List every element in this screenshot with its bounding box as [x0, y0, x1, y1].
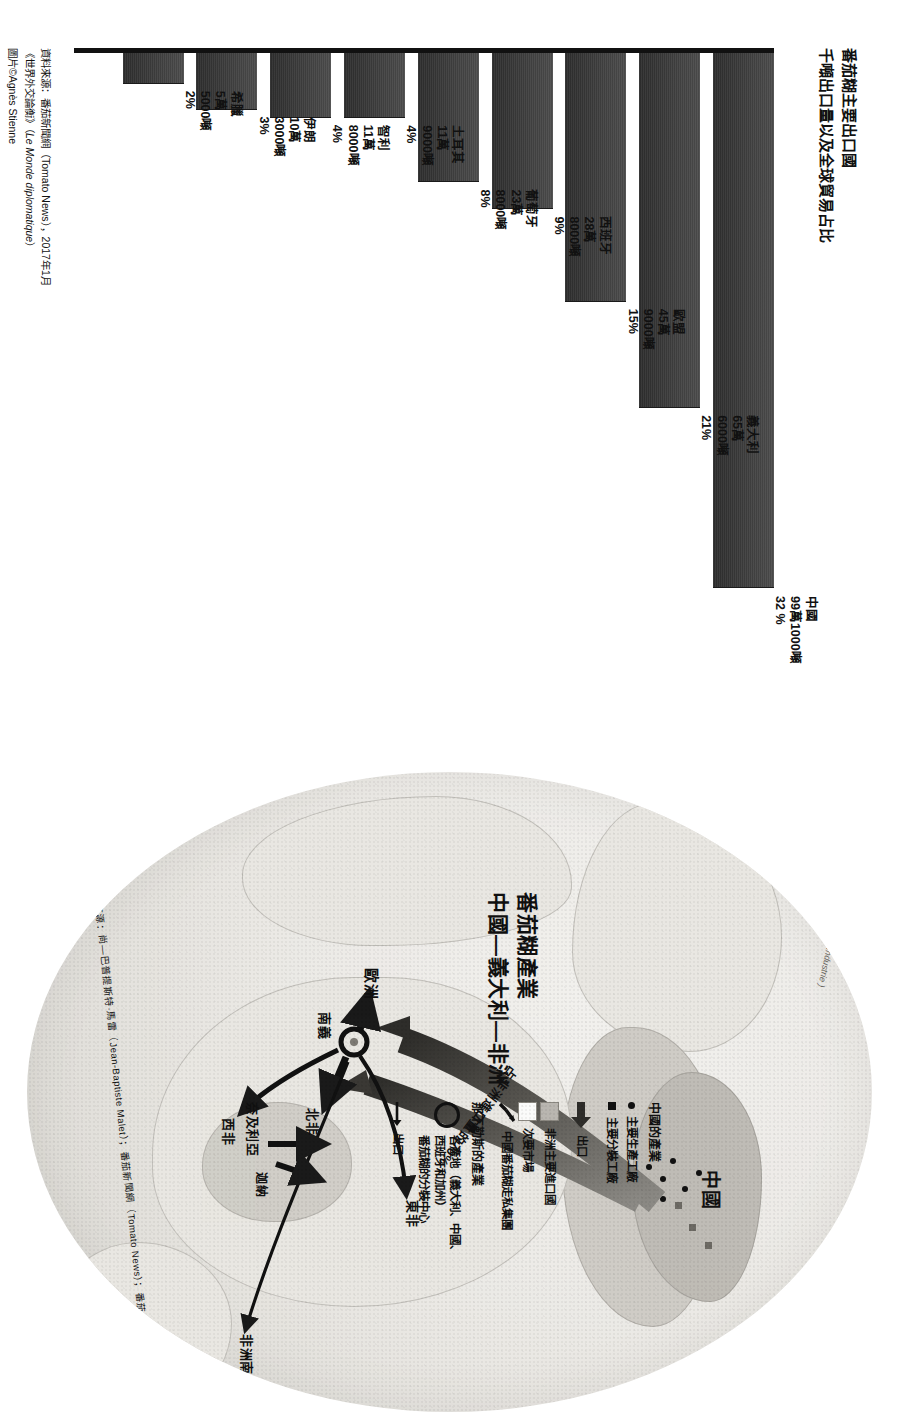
chart-title-line2: 千噸出口量以及全球貿易占比	[815, 48, 838, 243]
chart-bar	[123, 53, 184, 84]
chart-bar-label: 葡萄牙23萬8000噸8%	[477, 189, 538, 230]
origin-line1: 各產地（義大利、中國、	[449, 1135, 461, 1256]
chart-bar-label-line: 32 %	[772, 596, 787, 664]
chart-bar-label-line: 11萬	[434, 125, 449, 166]
label-ghana: 迦納	[253, 1172, 268, 1197]
chart-bar-label-line: 義大利	[744, 415, 759, 456]
chart-bar	[713, 53, 774, 588]
chart-bar-label-line: 8000噸	[566, 216, 581, 257]
chart-bar-label-line: 10萬	[286, 117, 301, 158]
chart-source: 資料來源：番茄新聞網（Tomato News），2017年1月 《世界外交論衡》…	[5, 48, 54, 286]
legend-label-export2: 出口	[389, 1133, 406, 1155]
chart-bar-label-line: 4%	[329, 125, 344, 166]
chart-bar-label-line: 28萬	[581, 216, 596, 257]
chart-bar	[270, 53, 331, 118]
chart-title-line1: 番茄糊主要出口國	[838, 48, 861, 243]
bar-chart-panel: 番茄糊主要出口國 千噸出口量以及全球貿易占比 中國99萬1000噸32 %義大利…	[0, 0, 900, 714]
map-title: 番茄糊產業 中國—義大利—非洲	[483, 892, 542, 1086]
label-north-africa: 北非	[304, 1108, 320, 1135]
chart-bar-label-line: 3000噸	[271, 117, 286, 158]
map-title-line2: 中國—義大利—非洲	[483, 892, 512, 1086]
map-legend: 中國的產業 主要生產工廠 主要分裝工廠 出口 非洲主要進口	[386, 1102, 662, 1256]
chart-bar-label: 西班牙28萬8000噸9%	[551, 216, 612, 257]
chart-bar-label: 中國99萬1000噸32 %	[772, 596, 818, 664]
chart-bar-label-line: 土耳其	[449, 125, 464, 166]
chart-bar-label-line: 希臘	[227, 91, 242, 132]
chart-bar-label: 土耳其11萬9000噸4%	[403, 125, 464, 166]
chart-bar-label-line: 8%	[477, 189, 492, 230]
chart-bar-label-line: 智利	[375, 125, 390, 166]
origin-line3: 番茄糊的分裝中心	[418, 1135, 430, 1223]
chart-bar-label: 義大利65萬6000噸21%	[698, 415, 759, 456]
legend-item-export: 出口	[571, 1102, 591, 1256]
circle-icon	[434, 1102, 460, 1128]
chart-bar-label-line: 8000噸	[492, 189, 507, 230]
legend-item-main-factory: 主要生產工廠	[623, 1102, 640, 1256]
chart-bar-label-line: 葡萄牙	[523, 189, 538, 230]
legend-label-smuggling: 中國番茄糊走私集團	[499, 1131, 516, 1230]
label-nigeria: 奈及利亞	[244, 1102, 260, 1156]
label-europe: 歐洲	[361, 968, 380, 999]
rotated-canvas: 番茄糊主要出口國 千噸出口量以及全球貿易占比 中國99萬1000噸32 %義大利…	[0, 0, 900, 1428]
legend-item-origin-hub: 各產地（義大利、中國、 西班牙和加州） 番茄糊的分裝中心	[416, 1102, 463, 1256]
source-suffix: ）	[24, 242, 36, 252]
map-title-line1: 番茄糊產業	[513, 892, 542, 1086]
globe-map: 番茄糊產業 中國—義大利—非洲 中國 歐洲 南義 北非 西非 東非 非洲南部 奈…	[27, 772, 872, 1412]
legend-item-secondary-market: 次要市場	[518, 1102, 537, 1256]
map-panel: 番茄糊產業 中國—義大利—非洲 中國 歐洲 南義 北非 西非 東非 非洲南部 奈…	[0, 714, 900, 1428]
chart-bars: 中國99萬1000噸32 %義大利65萬6000噸21%歐盟45萬9000噸15…	[74, 53, 774, 588]
gray-swatch-icon	[540, 1102, 559, 1121]
chart-source-line1: 資料來源：番茄新聞網（Tomato News），2017年1月	[38, 48, 54, 286]
chart-bar-label-line: 5000噸	[197, 91, 212, 132]
chart-plot-area: 中國99萬1000噸32 %義大利65萬6000噸21%歐盟45萬9000噸15…	[74, 48, 774, 588]
chart-bar-row: 伊朗10萬3000噸3%	[196, 53, 257, 588]
chart-bar-label-line: 5萬	[212, 91, 227, 132]
chart-bar-label-line: 歐盟	[670, 309, 685, 350]
chart-bar-row: 歐盟45萬9000噸15%	[565, 53, 626, 588]
legend-header-china-industry: 中國的產業	[645, 1102, 662, 1256]
chart-bar-label-line: 3%	[255, 117, 270, 158]
chart-source-line3: 圖片©Agnès Stienne	[5, 48, 21, 286]
source-prefix: 《世界外交論衡》（	[24, 48, 36, 133]
chart-bar-label-line: 11萬	[360, 125, 375, 166]
thick-arrow-icon	[571, 1102, 591, 1128]
chart-bar-label-line: 2%	[182, 91, 197, 132]
chart-bar-label-line: 9%	[551, 216, 566, 257]
origin-line2: 西班牙和加州）	[434, 1135, 446, 1212]
label-south-italy: 南義	[316, 1012, 332, 1039]
chart-bar-label-line: 99萬1000噸	[787, 596, 802, 664]
legend-label-africa-main-import: 非洲主要進口國	[541, 1128, 558, 1205]
chart-bar-label-line: 9000噸	[640, 309, 655, 350]
legend-label-export: 出口	[573, 1135, 590, 1157]
chart-bar	[565, 53, 626, 302]
source-publication: Le Monde diplomatique	[24, 133, 36, 242]
chart-bar-label: 智利11萬8000噸4%	[329, 125, 390, 166]
chart-bar-label-line: 45萬	[655, 309, 670, 350]
legend-header-naples: 那不勒斯的產業	[467, 1102, 484, 1256]
chart-bar-label-line: 6000噸	[713, 415, 728, 456]
legend-label-main-factory: 主要生產工廠	[623, 1116, 640, 1182]
chart-bar-label-line: 8000噸	[344, 125, 359, 166]
chart-bar-label-line: 9000噸	[418, 125, 433, 166]
legend-label-pack-factory: 主要分裝工廠	[603, 1117, 620, 1183]
square-icon	[608, 1102, 616, 1110]
chart-bar-row: 中國99萬1000噸32 %	[713, 53, 774, 588]
thin-arrow-icon	[391, 1102, 403, 1126]
chart-title: 番茄糊主要出口國 千噸出口量以及全球貿易占比	[815, 48, 860, 243]
chart-bar	[344, 53, 405, 118]
legend-label-secondary-market: 次要市場	[519, 1128, 536, 1172]
chart-bar-label-line: 4%	[403, 125, 418, 166]
white-swatch-icon	[518, 1102, 537, 1121]
dot-icon	[628, 1102, 635, 1109]
label-southern-africa: 非洲南部	[238, 1334, 254, 1388]
legend-item-smuggling: 中國番茄糊走私集團	[499, 1102, 516, 1256]
chart-bar	[492, 53, 553, 209]
chart-bar-label-line: 西班牙	[596, 216, 611, 257]
chart-bar-label: 伊朗10萬3000噸3%	[255, 117, 316, 158]
chart-bar-label-line: 65萬	[729, 415, 744, 456]
chart-bar-label-line: 15%	[624, 309, 639, 350]
chart-bar-label-line: 21%	[698, 415, 713, 456]
chart-bar-row: 西班牙28萬8000噸9%	[492, 53, 553, 588]
label-west-africa: 西非	[220, 1118, 236, 1145]
bent-arrow-icon	[499, 1102, 515, 1124]
